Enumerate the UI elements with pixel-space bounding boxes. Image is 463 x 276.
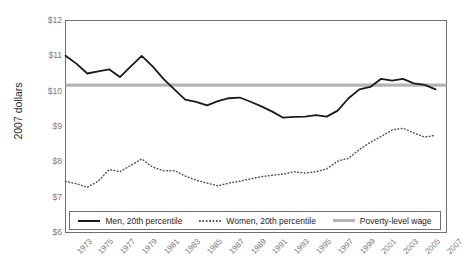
legend-item-women: Women, 20th percentile bbox=[199, 216, 316, 226]
legend-swatch-solid-line-icon bbox=[78, 217, 100, 224]
legend-item-poverty: Poverty-level wage bbox=[333, 216, 432, 226]
chart-figure: 2007 dollars $6$7$8$9$10$11$12 197319751… bbox=[0, 0, 463, 276]
legend-swatch-thick-line-icon bbox=[333, 217, 355, 224]
plot-frame bbox=[66, 21, 447, 233]
legend-label-poverty: Poverty-level wage bbox=[360, 216, 432, 226]
legend-item-men: Men, 20th percentile bbox=[78, 216, 182, 226]
legend-label-women: Women, 20th percentile bbox=[226, 216, 316, 226]
chart-legend: Men, 20th percentile Women, 20th percent… bbox=[69, 211, 441, 230]
legend-label-men: Men, 20th percentile bbox=[105, 216, 182, 226]
plot-area bbox=[0, 0, 463, 276]
legend-swatch-dotted-line-icon bbox=[199, 217, 221, 224]
